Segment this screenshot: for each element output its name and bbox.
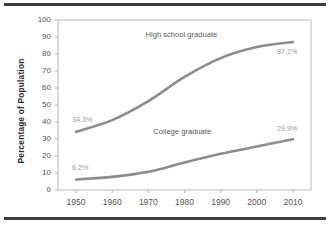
series-name-label: High school graduate (146, 30, 218, 39)
x-tick-label: 1950 (56, 197, 96, 207)
y-tick-label: 40 (25, 118, 51, 126)
data-value-label: 87.1% (277, 47, 297, 56)
x-tick-label: 1990 (201, 197, 241, 207)
y-tick-label: 30 (25, 135, 51, 143)
x-tick-label: 1970 (128, 197, 168, 207)
series-line-1 (76, 139, 293, 179)
y-tick-label: 10 (25, 169, 51, 177)
data-value-label: 34.3% (72, 115, 92, 124)
y-tick-label: 100 (25, 16, 51, 24)
x-tick-label: 2010 (273, 197, 313, 207)
y-tick-label: 60 (25, 84, 51, 92)
x-tick-label: 2000 (237, 197, 277, 207)
series-line-0 (76, 42, 293, 132)
y-tick-label: 80 (25, 50, 51, 58)
y-tick-label: 50 (25, 101, 51, 109)
bottom-divider-rule (4, 217, 326, 220)
y-tick-label: 20 (25, 152, 51, 160)
y-tick-label: 0 (25, 186, 51, 194)
y-tick-label: 70 (25, 67, 51, 75)
y-tick-label: 90 (25, 33, 51, 41)
figure: Percentage of Population 010203040506070… (0, 0, 330, 226)
series-name-label: College graduate (153, 127, 211, 136)
data-value-label: 6.2% (72, 163, 88, 172)
data-value-label: 29.9% (277, 124, 297, 133)
series-lines (76, 42, 293, 180)
x-tick-label: 1980 (165, 197, 205, 207)
x-tick-label: 1960 (92, 197, 132, 207)
chart-plot-area: Percentage of Population 010203040506070… (0, 8, 330, 213)
top-divider-rule (4, 3, 326, 6)
